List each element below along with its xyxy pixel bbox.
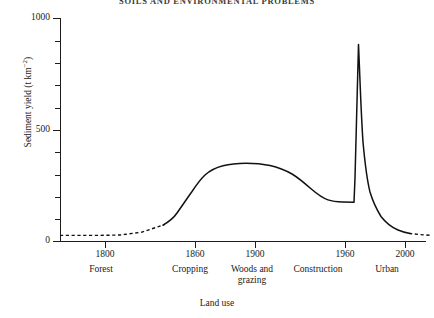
x-tick-2000 <box>405 242 406 248</box>
chart-plot-area <box>60 18 425 241</box>
y-axis-title-close: ) <box>23 57 33 60</box>
x-tick-label-1900: 1900 <box>232 249 278 259</box>
running-head: SOILS AND ENVIRONMENTAL PROBLEMS <box>0 0 434 4</box>
x-axis-line <box>60 241 426 242</box>
x-tick-label-1960: 1960 <box>322 249 368 259</box>
series-solid-main <box>163 45 410 234</box>
x-tick-label-2000: 2000 <box>382 249 428 259</box>
figure-container: SOILS AND ENVIRONMENTAL PROBLEMS 1000 50… <box>0 0 434 318</box>
y-axis-title: Sediment yield (t km−2) <box>21 27 33 177</box>
category-label-woods-line2: grazing <box>202 275 302 286</box>
category-band: Forest Cropping Woods and grazing Constr… <box>60 264 426 290</box>
y-tick-0 <box>53 241 61 242</box>
y-axis-title-main: Sediment yield (t km <box>23 67 33 147</box>
category-label-forest-line1: Forest <box>51 264 151 275</box>
x-tick-1900 <box>255 242 256 248</box>
x-tick-1800 <box>105 242 106 248</box>
y-axis-title-exponent: −2 <box>21 60 29 67</box>
x-tick-label-1800: 1800 <box>82 249 128 259</box>
x-tick-1960 <box>345 242 346 248</box>
series-dashed-tail <box>409 233 432 235</box>
series-dashed-early <box>60 224 165 235</box>
x-axis-title: Land use <box>0 298 434 308</box>
category-label-urban-line1: Urban <box>337 264 434 275</box>
y-tick-label-0: 0 <box>8 236 50 246</box>
x-tick-label-1860: 1860 <box>172 249 218 259</box>
category-label-forest: Forest <box>51 264 151 275</box>
category-label-urban: Urban <box>337 264 434 275</box>
x-tick-1860 <box>195 242 196 248</box>
y-tick-label-1000: 1000 <box>8 13 50 23</box>
